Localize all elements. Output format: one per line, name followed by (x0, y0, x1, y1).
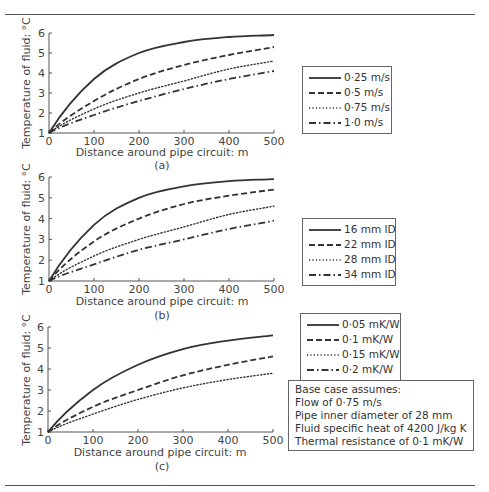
legend-item: 0·5 m/s (309, 85, 385, 100)
legend-label: 34 mm ID (344, 267, 396, 282)
legend-swatch-dashed (309, 89, 341, 97)
base-case-line: Fluid specific heat of 4200 J/kg K (295, 422, 467, 435)
bottom-rule (5, 485, 475, 486)
legend-c: 0·05 mK/W0·1 mK/W0·15 mK/W0·2 mK/W (300, 313, 401, 381)
legend-a: 0·25 m/s0·5 m/s0·75 m/s1·0 m/s (302, 66, 392, 134)
legend-label: 0·75 m/s (344, 100, 390, 115)
legend-swatch-dash-dot (309, 119, 341, 127)
legend-label: 0·2 mK/W (342, 362, 393, 377)
legend-label: 22 mm ID (344, 237, 396, 252)
legend-item: 22 mm ID (309, 237, 389, 252)
x-tick-label: 0 (45, 434, 52, 447)
legend-label: 0·15 mK/W (342, 347, 400, 362)
legend-label: 16 mm ID (344, 222, 396, 237)
legend-swatch-dash-dot (307, 366, 339, 374)
legend-swatch-dash-dot (309, 271, 341, 279)
legend-item: 0·25 m/s (309, 70, 385, 85)
legend-swatch-dashed (307, 336, 339, 344)
legend-label: 0·5 m/s (344, 85, 383, 100)
legend-item: 34 mm ID (309, 267, 389, 282)
base-case-title: Base case assumes: (295, 383, 467, 396)
legend-item: 1·0 m/s (309, 115, 385, 130)
legend-label: 0·05 mK/W (342, 317, 400, 332)
y-axis-title: Temperature of fluid: °C (20, 314, 33, 447)
legend-swatch-dotted (309, 256, 341, 264)
y-tick-label: 2 (37, 405, 44, 418)
y-tick-label: 4 (37, 363, 44, 376)
x-axis-title: Distance around pipe circuit: m (74, 446, 247, 459)
series-line-dashed (48, 356, 273, 432)
legend-swatch-solid (309, 74, 341, 82)
legend-item: 0·1 mK/W (307, 332, 394, 347)
legend-swatch-dotted (307, 351, 339, 359)
legend-label: 28 mm ID (344, 252, 396, 267)
legend-item: 28 mm ID (309, 252, 389, 267)
base-case-line: Thermal resistance of 0·1 mK/W (295, 435, 467, 448)
chart-c: 1234560100200300400500 Temperature of fl… (0, 0, 290, 480)
series-line-dotted (48, 373, 273, 432)
legend-swatch-solid (307, 321, 339, 329)
base-case-line: Flow of 0·75 m/s (295, 396, 467, 409)
legend-b: 16 mm ID22 mm ID28 mm ID34 mm ID (302, 218, 396, 286)
legend-item: 0·2 mK/W (307, 362, 394, 377)
x-tick-label: 500 (263, 434, 284, 447)
y-tick-label: 1 (37, 426, 44, 439)
legend-swatch-solid (309, 226, 341, 234)
y-tick-label: 3 (37, 384, 44, 397)
base-case-line: Pipe inner diameter of 28 mm (295, 409, 467, 422)
legend-swatch-dotted (309, 104, 341, 112)
legend-item: 0·15 mK/W (307, 347, 394, 362)
y-tick-label: 5 (37, 342, 44, 355)
legend-swatch-dashed (309, 241, 341, 249)
legend-item: 16 mm ID (309, 222, 389, 237)
series-line-solid (48, 335, 273, 432)
legend-item: 0·75 m/s (309, 100, 385, 115)
base-case-box: Base case assumes: Flow of 0·75 m/s Pipe… (288, 380, 474, 451)
legend-label: 0·25 m/s (344, 70, 390, 85)
legend-item: 0·05 mK/W (307, 317, 394, 332)
legend-label: 1·0 m/s (344, 115, 383, 130)
panel-label: (c) (155, 460, 170, 473)
y-tick-label: 6 (37, 321, 44, 334)
legend-label: 0·1 mK/W (342, 332, 393, 347)
